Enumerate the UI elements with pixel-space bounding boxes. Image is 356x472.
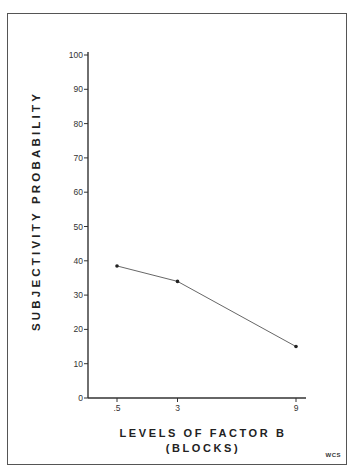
y-tick-label: 0 xyxy=(78,393,83,403)
data-point xyxy=(294,345,298,349)
x-tick-label: .5 xyxy=(113,403,120,413)
data-point xyxy=(176,280,180,284)
y-tick-label: 40 xyxy=(74,256,84,266)
x-tick-label: 9 xyxy=(294,403,299,413)
y-tick-label: 10 xyxy=(74,359,84,369)
data-line xyxy=(117,266,296,347)
y-tick-label: 50 xyxy=(74,222,84,232)
y-axis-label: SUBJECTIVITY PROBABILITY xyxy=(30,91,42,331)
y-tick-label: 70 xyxy=(74,153,84,163)
data-point xyxy=(115,264,119,268)
x-axis-sublabel: (BLOCKS) xyxy=(0,442,356,454)
x-axis-subtitle: (BLOCKS) xyxy=(166,442,241,454)
x-axis-title: LEVELS OF FACTOR B xyxy=(120,427,287,439)
y-tick-label: 100 xyxy=(69,50,83,60)
x-axis-label: LEVELS OF FACTOR B xyxy=(0,427,356,439)
signature: WCS xyxy=(326,452,342,458)
line-chart: 0102030405060708090100.539 xyxy=(0,0,356,472)
y-tick-label: 80 xyxy=(74,119,84,129)
y-tick-label: 60 xyxy=(74,187,84,197)
y-tick-label: 90 xyxy=(74,84,84,94)
x-tick-label: 3 xyxy=(175,403,180,413)
y-tick-label: 30 xyxy=(74,290,84,300)
y-tick-label: 20 xyxy=(74,324,84,334)
